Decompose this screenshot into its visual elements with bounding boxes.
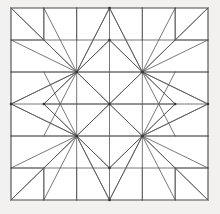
vertex-marker — [141, 135, 144, 138]
vertex-marker — [108, 103, 111, 106]
vertex-marker — [108, 39, 111, 42]
vertex-marker — [10, 103, 13, 106]
vertex-marker — [174, 103, 177, 106]
vertex-marker — [108, 167, 111, 170]
vertex-marker — [75, 71, 78, 74]
vertex-marker — [108, 7, 111, 10]
vertex-marker — [141, 71, 144, 74]
vertex-marker — [75, 135, 78, 138]
vertex-marker — [207, 103, 210, 106]
quilt-block-figure: Eight-Pointed Star Quilt Block — [0, 0, 220, 214]
vertex-marker — [108, 199, 111, 202]
vertex-marker — [43, 103, 46, 106]
